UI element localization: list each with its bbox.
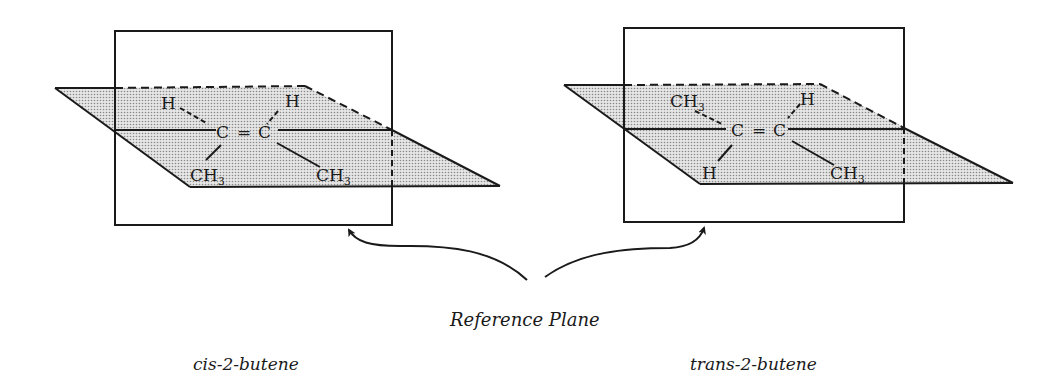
double-bond: = [752,120,766,140]
arrow-to-cis-plane [349,230,527,280]
atom-top-left: H [161,93,176,113]
atom-bottom-left: H [702,163,717,183]
reference-plane-label: Reference Plane [449,309,600,330]
cis-diagram: H H C = C CH3 CH3 [55,31,500,225]
carbon-right: C [258,122,271,142]
trans-caption: trans-2-butene [690,354,817,374]
isomer-diagram: H H C = C CH3 CH3 CH3 H C = C [0,0,1062,377]
double-bond: = [237,122,251,142]
carbon-left: C [216,122,229,142]
carbon-left: C [731,120,744,140]
cis-caption: cis-2-butene [193,354,299,374]
atom-top-right: H [800,89,815,109]
carbon-right: C [773,120,786,140]
trans-diagram: CH3 H C = C H CH3 [564,28,1013,222]
plane-edge-bottom [700,183,1013,184]
atom-top-right: H [285,91,300,111]
arrow-to-trans-plane [545,228,704,277]
